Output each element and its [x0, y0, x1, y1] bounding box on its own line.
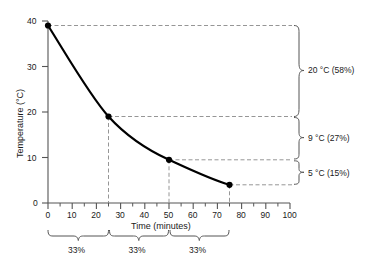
bracket-label-middle: 9 °C (27%) — [308, 134, 350, 143]
x-tick-label-50: 50 — [164, 211, 173, 220]
x-tick-label-70: 70 — [212, 211, 221, 220]
bottom-bracket-label-second: 33% — [129, 246, 146, 255]
y-tick-label-20: 20 — [27, 108, 36, 117]
right-bracket-top — [294, 26, 304, 117]
x-tick-label-10: 10 — [67, 211, 76, 220]
x-tick-label-0: 0 — [46, 211, 51, 220]
right-bracket-bottom — [294, 161, 304, 185]
x-tick-label-80: 80 — [236, 211, 245, 220]
bottom-bracket-label-first: 33% — [68, 246, 85, 255]
x-tick-label-30: 30 — [115, 211, 124, 220]
bottom-bracket-third — [170, 230, 229, 241]
y-tick-label-0: 0 — [33, 199, 38, 208]
cooling-curve-figure: 40 30 20 10 0 0 10 20 30 40 50 60 70 80 … — [0, 0, 367, 273]
x-tick-label-40: 40 — [140, 211, 149, 220]
bracket-label-top: 20 °C (58%) — [308, 66, 354, 75]
y-axis-title: Temperature (°C) — [16, 89, 25, 158]
x-axis-title: Time (minutes) — [131, 222, 191, 231]
bottom-bracket-label-third: 33% — [189, 246, 206, 255]
data-point-markers — [45, 22, 233, 188]
bottom-bracket-second — [110, 230, 169, 241]
x-tick-label-100: 100 — [283, 211, 297, 220]
y-axis-ticks — [42, 21, 48, 203]
y-tick-label-40: 40 — [27, 17, 36, 26]
x-tick-label-20: 20 — [91, 211, 100, 220]
cooling-curve-line — [48, 26, 230, 185]
bottom-bracket-first — [48, 230, 109, 241]
y-tick-label-10: 10 — [27, 154, 36, 163]
x-tick-label-90: 90 — [261, 211, 270, 220]
right-bracket-middle — [294, 118, 304, 160]
bracket-label-bottom: 5 °C (15%) — [308, 169, 350, 178]
x-tick-label-60: 60 — [188, 211, 197, 220]
y-tick-label-30: 30 — [27, 63, 36, 72]
